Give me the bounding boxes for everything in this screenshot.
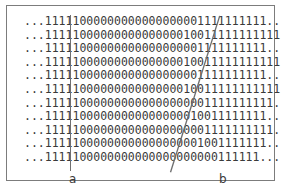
binary-boundary-figure: ...11111000000000000000001111111111... .… (0, 0, 282, 192)
marker-label-b: b (219, 173, 227, 185)
binary-row: ...111110000000000000000001111111111... (24, 124, 274, 138)
binary-row: ...11111000000000000000001111111111... (24, 15, 274, 29)
binary-row: ...111110000000000000000001111111111... (24, 97, 274, 111)
binary-row: ...11111000000000000000010011111111... (24, 110, 274, 124)
boundary-line-a (70, 15, 71, 171)
marker-label-a: a (69, 173, 76, 185)
figure-frame: ...11111000000000000000001111111111... .… (6, 5, 275, 181)
binary-row-list: ...11111000000000000000001111111111... .… (24, 15, 274, 165)
binary-row: ...11111000000000000000001111111111... (24, 69, 274, 83)
binary-row: ...1111100000000000000010011111111111... (24, 83, 274, 97)
binary-row: ...11111000000000000000001111111111... (24, 42, 274, 56)
binary-row: ...1111100000000000000000000111111... (24, 151, 274, 165)
binary-row: ...1111100000000000000010011111111111... (24, 29, 274, 43)
binary-row: ...1111100000000000000010011111111111... (24, 56, 274, 70)
binary-row: ...11111000000000000000001001111111... (24, 137, 274, 151)
